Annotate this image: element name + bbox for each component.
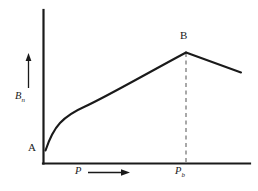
y-axis-label: Bn (15, 91, 25, 104)
plot-canvas (0, 0, 258, 191)
point-b-label: B (180, 30, 187, 41)
point-a-label: A (28, 142, 36, 153)
x-axis-label-symbol: P (75, 165, 81, 176)
pb-tick-label: Pb (175, 166, 185, 179)
pb-tick-label-subscript: b (181, 171, 185, 179)
curve-rising-branch (46, 53, 187, 151)
y-axis-label-subscript: n (21, 96, 25, 104)
figure-container: Bn P Pb A B (0, 0, 258, 191)
curve-falling-branch (186, 53, 241, 73)
x-axis-direction-arrow-icon (88, 169, 130, 175)
y-axis-direction-arrow-icon (26, 53, 32, 88)
x-axis-label: P (75, 166, 81, 177)
